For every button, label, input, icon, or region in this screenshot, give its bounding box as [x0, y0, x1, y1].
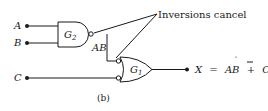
gate-g1-label: G1: [130, 64, 142, 77]
input-label-c: C: [14, 72, 22, 83]
input-label-b: B: [13, 37, 21, 48]
gate-g1-input-bubble-1: [116, 59, 120, 63]
stray-mark: [235, 56, 236, 57]
wire-label-ab: AB: [91, 42, 107, 53]
output-expression: X = AB + C: [194, 64, 268, 75]
gate-g2-label: G2: [64, 29, 77, 42]
wire-g2-to-g1: [107, 34, 116, 61]
gate-g2-output-bubble: [89, 32, 93, 36]
output-terminal: [185, 68, 189, 72]
gate-g1-input-bubble-2: [116, 76, 120, 80]
annotation-inversions-cancel: Inversions cancel: [158, 9, 247, 20]
circuit-svg: A B G2 AB C G1 X = AB + C Inversions can…: [0, 0, 268, 111]
input-label-a: A: [13, 20, 21, 31]
figure-caption: (b): [97, 93, 110, 103]
logic-diagram: A B G2 AB C G1 X = AB + C Inversions can…: [0, 0, 268, 111]
